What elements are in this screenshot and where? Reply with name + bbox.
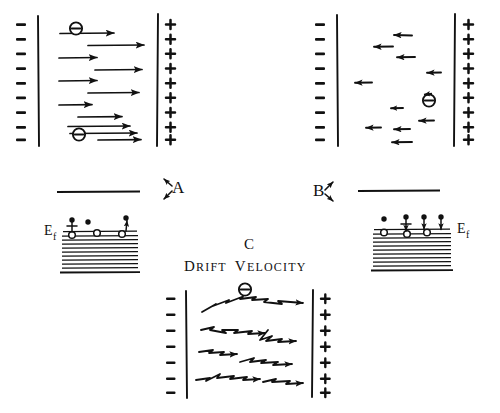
panel-b-electrons <box>423 94 435 107</box>
electron-dot <box>85 219 90 224</box>
figure-title-d: D <box>184 258 196 274</box>
hole-circle <box>424 229 431 236</box>
hole-circle <box>119 231 126 238</box>
electron-dot <box>381 216 386 221</box>
hole-circle <box>404 231 411 238</box>
left-band-top-level <box>57 192 140 193</box>
panel-a-label: A <box>172 178 185 197</box>
canvas-background <box>0 0 500 413</box>
electron-dot <box>123 215 128 220</box>
panel-b-label: B <box>313 181 324 200</box>
electron-symbol <box>239 283 251 295</box>
svg-text:E: E <box>44 223 53 238</box>
right-band-top-level <box>358 191 440 192</box>
electron-symbol <box>73 128 85 140</box>
electron-velocity-arrow <box>424 94 432 95</box>
hole-circle <box>94 230 101 237</box>
svg-text:E: E <box>457 221 466 236</box>
caption-letter: C <box>244 236 254 252</box>
electron-symbol <box>423 94 435 106</box>
panel-c-electrons <box>239 283 251 295</box>
electron-symbol <box>70 22 82 34</box>
hole-circle <box>381 229 388 236</box>
figure-title: DRIFTVELOCITY <box>184 258 307 274</box>
drift-velocity-figure: A B E f <box>0 0 500 413</box>
figure-canvas: A B E f <box>0 0 500 413</box>
